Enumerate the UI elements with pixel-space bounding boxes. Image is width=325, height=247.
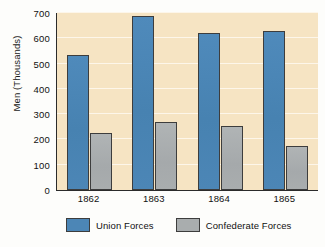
bar-group bbox=[263, 13, 308, 190]
x-axis-tick-labels: 1862186318641865 bbox=[56, 193, 317, 209]
bar-union-1865 bbox=[263, 31, 285, 190]
y-axis-tick-label: 100 bbox=[14, 159, 50, 170]
legend-item[interactable]: Union Forces bbox=[66, 218, 154, 232]
y-axis-tick-label: 600 bbox=[14, 33, 50, 44]
bar-group bbox=[198, 13, 243, 190]
x-axis-tick-label: 1863 bbox=[143, 193, 165, 204]
bar-group bbox=[132, 13, 177, 190]
bar-confederate-1864 bbox=[221, 126, 243, 190]
x-axis-tick-label: 1864 bbox=[208, 193, 230, 204]
bar-union-1863 bbox=[132, 16, 154, 190]
bar-group bbox=[67, 13, 112, 190]
y-axis-tick-labels: 0100200300400500600700 bbox=[14, 13, 50, 190]
bar-confederate-1863 bbox=[155, 122, 177, 190]
x-axis-tick-label: 1862 bbox=[78, 193, 100, 204]
plot-area bbox=[56, 13, 318, 191]
chart-legend: Union ForcesConfederate Forces bbox=[56, 215, 317, 235]
bar-confederate-1862 bbox=[90, 133, 112, 190]
bars-layer bbox=[57, 13, 318, 190]
legend-label: Confederate Forces bbox=[206, 220, 292, 231]
legend-swatch-union bbox=[66, 218, 90, 232]
y-axis-tick-label: 200 bbox=[14, 134, 50, 145]
bar-union-1864 bbox=[198, 33, 220, 190]
y-axis-tick-label: 400 bbox=[14, 83, 50, 94]
bar-confederate-1865 bbox=[286, 146, 308, 190]
bar-union-1862 bbox=[67, 55, 89, 190]
y-axis-tick-label: 700 bbox=[14, 8, 50, 19]
legend-swatch-confederate bbox=[176, 218, 200, 232]
y-axis-tick-label: 500 bbox=[14, 58, 50, 69]
legend-item[interactable]: Confederate Forces bbox=[176, 218, 292, 232]
bar-chart: Men (Thousands) 0100200300400500600700 1… bbox=[0, 0, 325, 247]
x-axis-tick-label: 1865 bbox=[273, 193, 295, 204]
y-axis-tick-label: 300 bbox=[14, 109, 50, 120]
legend-label: Union Forces bbox=[96, 220, 154, 231]
y-axis-tick-label: 0 bbox=[14, 185, 50, 196]
